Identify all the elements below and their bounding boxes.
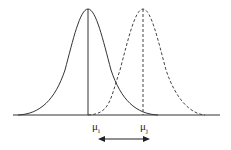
arrow-left-head-icon [98,136,105,142]
distributions-diagram [0,0,231,150]
arrow-right-head-icon [143,136,150,142]
mean-j-label: μj [140,120,148,135]
mean-i-label: μi [92,120,100,135]
dashed-gaussian-curve [88,9,205,115]
